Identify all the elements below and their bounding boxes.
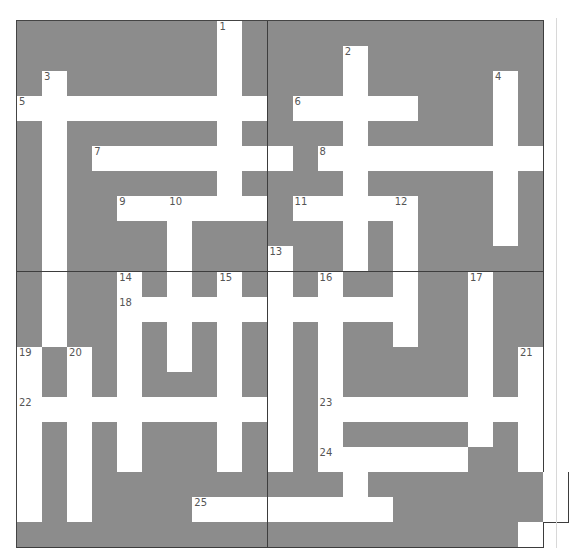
grid-cell[interactable] xyxy=(468,372,494,398)
grid-cell[interactable] xyxy=(393,272,419,298)
grid-cell[interactable] xyxy=(518,447,544,473)
grid-cell[interactable] xyxy=(217,422,243,448)
grid-cell[interactable] xyxy=(318,372,344,398)
grid-cell[interactable] xyxy=(343,497,369,523)
grid-cell[interactable] xyxy=(268,447,294,473)
grid-cell[interactable] xyxy=(167,146,193,172)
grid-cell[interactable] xyxy=(42,146,68,172)
grid-cell[interactable] xyxy=(242,497,268,523)
grid-cell[interactable]: 6 xyxy=(293,96,319,122)
grid-cell[interactable] xyxy=(468,422,494,448)
grid-cell[interactable] xyxy=(268,372,294,398)
grid-cell[interactable] xyxy=(167,96,193,122)
grid-cell[interactable] xyxy=(518,372,544,398)
grid-cell[interactable] xyxy=(393,221,419,247)
grid-cell[interactable] xyxy=(343,447,369,473)
grid-cell[interactable] xyxy=(167,221,193,247)
grid-cell[interactable]: 2 xyxy=(343,46,369,72)
grid-cell[interactable] xyxy=(192,196,218,222)
grid-cell[interactable]: 15 xyxy=(217,272,243,298)
grid-cell[interactable] xyxy=(393,297,419,323)
grid-cell[interactable] xyxy=(217,297,243,323)
grid-cell[interactable] xyxy=(468,146,494,172)
grid-cell[interactable] xyxy=(42,121,68,147)
grid-cell[interactable] xyxy=(368,297,394,323)
grid-cell[interactable] xyxy=(142,397,168,423)
grid-cell[interactable] xyxy=(42,196,68,222)
grid-cell[interactable] xyxy=(268,297,294,323)
grid-cell[interactable] xyxy=(368,146,394,172)
grid-cell[interactable] xyxy=(393,397,419,423)
grid-cell[interactable] xyxy=(293,497,319,523)
grid-cell[interactable]: 18 xyxy=(117,297,143,323)
grid-cell[interactable]: 12 xyxy=(393,196,419,222)
grid-cell[interactable] xyxy=(268,272,294,298)
grid-cell[interactable] xyxy=(167,272,193,298)
grid-cell[interactable] xyxy=(268,397,294,423)
grid-cell[interactable] xyxy=(343,196,369,222)
grid-cell[interactable] xyxy=(493,221,519,247)
grid-cell[interactable] xyxy=(117,347,143,373)
grid-cell[interactable] xyxy=(343,397,369,423)
grid-cell[interactable] xyxy=(318,322,344,348)
grid-cell[interactable]: 14 xyxy=(117,272,143,298)
grid-cell[interactable] xyxy=(142,96,168,122)
grid-cell[interactable] xyxy=(67,397,93,423)
grid-cell[interactable]: 20 xyxy=(67,347,93,373)
grid-cell[interactable] xyxy=(242,397,268,423)
grid-cell[interactable]: 24 xyxy=(318,447,344,473)
grid-cell[interactable] xyxy=(518,422,544,448)
grid-cell[interactable] xyxy=(518,146,544,172)
grid-cell[interactable]: 25 xyxy=(192,497,218,523)
grid-cell[interactable] xyxy=(318,347,344,373)
grid-cell[interactable] xyxy=(67,497,93,523)
grid-cell[interactable] xyxy=(368,447,394,473)
grid-cell[interactable] xyxy=(217,96,243,122)
grid-cell[interactable] xyxy=(117,372,143,398)
grid-cell[interactable] xyxy=(268,146,294,172)
grid-cell[interactable] xyxy=(217,372,243,398)
grid-cell[interactable] xyxy=(368,196,394,222)
grid-cell[interactable] xyxy=(418,146,444,172)
grid-cell[interactable] xyxy=(42,171,68,197)
grid-cell[interactable] xyxy=(17,447,43,473)
grid-cell[interactable] xyxy=(217,121,243,147)
grid-cell[interactable] xyxy=(192,397,218,423)
grid-cell[interactable] xyxy=(343,121,369,147)
grid-cell[interactable] xyxy=(368,497,394,523)
grid-cell[interactable] xyxy=(443,146,469,172)
grid-cell[interactable] xyxy=(343,297,369,323)
grid-cell[interactable] xyxy=(443,397,469,423)
grid-cell[interactable] xyxy=(167,297,193,323)
grid-cell[interactable] xyxy=(217,447,243,473)
grid-cell[interactable] xyxy=(192,297,218,323)
grid-cell[interactable] xyxy=(343,146,369,172)
grid-cell[interactable] xyxy=(468,347,494,373)
grid-cell[interactable] xyxy=(418,447,444,473)
grid-cell[interactable] xyxy=(142,196,168,222)
grid-cell[interactable] xyxy=(242,297,268,323)
grid-cell[interactable] xyxy=(318,422,344,448)
grid-cell[interactable] xyxy=(268,497,294,523)
grid-cell[interactable] xyxy=(42,322,68,348)
grid-cell[interactable] xyxy=(368,397,394,423)
grid-cell[interactable] xyxy=(518,522,544,548)
grid-cell[interactable] xyxy=(318,196,344,222)
grid-cell[interactable] xyxy=(468,397,494,423)
grid-cell[interactable] xyxy=(167,322,193,348)
grid-cell[interactable] xyxy=(368,96,394,122)
grid-cell[interactable] xyxy=(493,146,519,172)
grid-cell[interactable]: 5 xyxy=(17,96,43,122)
grid-cell[interactable] xyxy=(167,347,193,373)
grid-cell[interactable] xyxy=(242,96,268,122)
grid-cell[interactable]: 1 xyxy=(217,21,243,47)
grid-cell[interactable]: 13 xyxy=(268,246,294,272)
grid-cell[interactable] xyxy=(493,397,519,423)
grid-cell[interactable] xyxy=(493,196,519,222)
grid-cell[interactable] xyxy=(217,347,243,373)
grid-cell[interactable] xyxy=(493,121,519,147)
grid-cell[interactable]: 3 xyxy=(42,71,68,97)
grid-cell[interactable] xyxy=(318,96,344,122)
grid-cell[interactable]: 10 xyxy=(167,196,193,222)
grid-cell[interactable] xyxy=(67,422,93,448)
